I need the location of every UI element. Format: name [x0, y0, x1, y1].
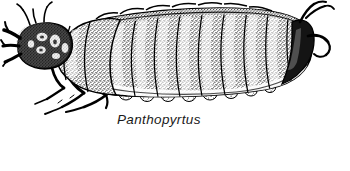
illustration-figure: Panthopyrtus [0, 0, 350, 171]
larva-drawing [0, 0, 350, 171]
